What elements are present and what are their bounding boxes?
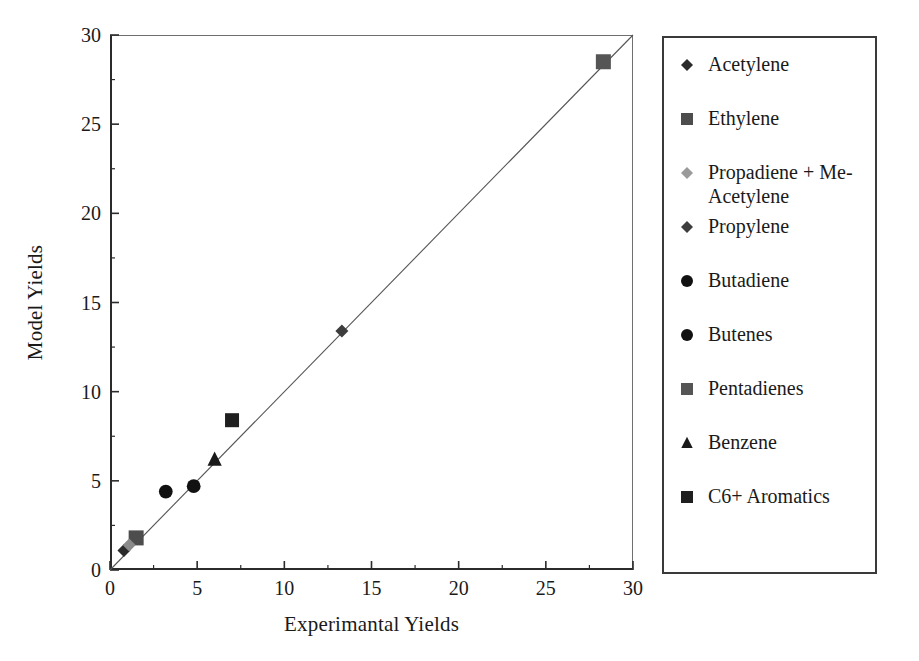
- legend-item[interactable]: Butenes: [678, 322, 875, 346]
- x-tick-label: 0: [105, 578, 115, 598]
- square-marker-icon: [678, 376, 700, 400]
- square-marker-icon: [678, 106, 700, 130]
- legend-item[interactable]: Ethylene: [678, 106, 875, 130]
- circle-marker-icon: [678, 268, 700, 292]
- legend-items: AcetyleneEthylenePropadiene + Me-Acetyle…: [664, 38, 875, 572]
- y-tick-label: 0: [91, 560, 101, 580]
- y-tick-label: 20: [81, 203, 101, 223]
- x-tick-label: 20: [449, 578, 469, 598]
- legend-item-label: Butadiene: [708, 268, 789, 292]
- legend-item-label: Benzene: [708, 430, 777, 454]
- x-tick-label: 30: [623, 578, 643, 598]
- y-tick-label: 5: [91, 471, 101, 491]
- y-tick-label: 30: [81, 25, 101, 45]
- legend-item-label: Propadiene + Me-Acetylene: [708, 160, 868, 208]
- legend-item[interactable]: Butadiene: [678, 268, 875, 292]
- diamond-marker-icon: [678, 214, 700, 238]
- legend-item[interactable]: C6+ Aromatics: [678, 484, 875, 508]
- x-tick-label: 15: [362, 578, 382, 598]
- data-point: C6+ Aromatics (7, 8.4): [225, 413, 239, 427]
- legend-item-label: Ethylene: [708, 106, 779, 130]
- data-points: Acetylene (0.8, 1.1)Ethylene (1.5, 1.8)P…: [117, 54, 610, 557]
- y-tick-label: 15: [81, 293, 101, 313]
- legend-item-label: Propylene: [708, 214, 789, 238]
- y-axis-title: Model Yields: [20, 35, 50, 570]
- data-point: Butenes (4.8, 4.7): [187, 479, 201, 493]
- plot-canvas: Acetylene (0.8, 1.1)Ethylene (1.5, 1.8)P…: [110, 35, 633, 570]
- circle-marker-icon: [678, 322, 700, 346]
- diamond-marker-icon: [678, 160, 700, 184]
- scatter-plot: Acetylene (0.8, 1.1)Ethylene (1.5, 1.8)P…: [110, 35, 633, 570]
- x-tick-label: 25: [536, 578, 556, 598]
- legend-item[interactable]: Benzene: [678, 430, 875, 454]
- legend-item[interactable]: Propylene: [678, 214, 875, 238]
- y-tick-label: 25: [81, 114, 101, 134]
- x-tick-label: 10: [274, 578, 294, 598]
- x-tick-label: 5: [192, 578, 202, 598]
- data-point: Propylene (13.3, 13.4): [335, 325, 348, 338]
- data-point: Pentadienes (28.3, 28.5): [596, 54, 611, 69]
- legend-item[interactable]: Acetylene: [678, 52, 875, 76]
- triangle-marker-icon: [678, 430, 700, 454]
- square-marker-icon: [678, 484, 700, 508]
- legend-item-label: C6+ Aromatics: [708, 484, 830, 508]
- legend-item-label: Pentadienes: [708, 376, 804, 400]
- diamond-marker-icon: [678, 52, 700, 76]
- x-axis-title: Experimantal Yields: [110, 612, 633, 637]
- legend-item-label: Acetylene: [708, 52, 789, 76]
- legend: AcetyleneEthylenePropadiene + Me-Acetyle…: [662, 36, 877, 574]
- legend-item[interactable]: Propadiene + Me-Acetylene: [678, 160, 875, 208]
- data-point: Butadiene (3.2, 4.4): [159, 485, 173, 499]
- legend-item-label: Butenes: [708, 322, 772, 346]
- chart-page: Acetylene (0.8, 1.1)Ethylene (1.5, 1.8)P…: [0, 0, 919, 661]
- legend-item[interactable]: Pentadienes: [678, 376, 875, 400]
- y-tick-label: 10: [81, 382, 101, 402]
